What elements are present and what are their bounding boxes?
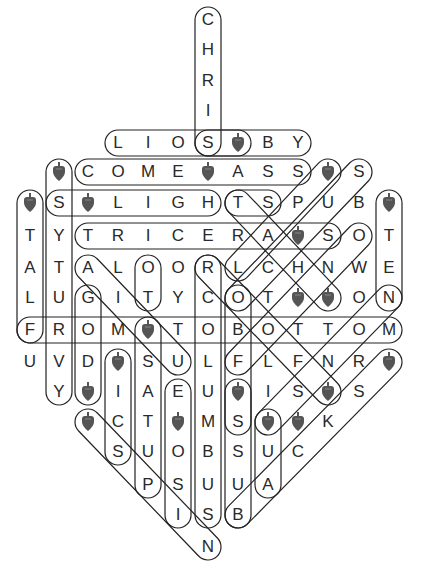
grid-letter: H bbox=[286, 256, 310, 280]
grid-letter: C bbox=[286, 440, 310, 464]
grid-letter: L bbox=[106, 131, 130, 155]
grid-letter: E bbox=[166, 160, 190, 184]
dreidel-icon bbox=[291, 288, 305, 308]
grid-letter: B bbox=[256, 131, 280, 155]
grid-letter: I bbox=[256, 380, 280, 404]
grid-letter: S bbox=[256, 191, 280, 215]
dreidel-icon bbox=[321, 162, 335, 182]
grid-letter: C bbox=[256, 256, 280, 280]
grid-letter: N bbox=[316, 350, 340, 374]
grid-letter: O bbox=[226, 286, 250, 310]
grid-letter: O bbox=[166, 131, 190, 155]
grid-letter: S bbox=[196, 131, 220, 155]
grid-letter: N bbox=[316, 256, 340, 280]
grid-letter: R bbox=[347, 350, 371, 374]
grid-letter: L bbox=[106, 256, 130, 280]
grid-letter: T bbox=[256, 286, 280, 310]
grid-letter: E bbox=[166, 380, 190, 404]
grid-letter: L bbox=[256, 350, 280, 374]
dreidel-icon bbox=[321, 288, 335, 308]
grid-letter: C bbox=[196, 8, 220, 32]
dreidel-icon bbox=[291, 226, 305, 246]
grid-letter: B bbox=[226, 503, 250, 527]
grid-letter: T bbox=[316, 318, 340, 342]
grid-letter: U bbox=[226, 473, 250, 497]
grid-letter: I bbox=[166, 503, 190, 527]
grid-letter: R bbox=[47, 318, 71, 342]
grid-letter: E bbox=[377, 256, 401, 280]
grid-letter: S bbox=[136, 350, 160, 374]
grid-letter: U bbox=[136, 440, 160, 464]
grid-letter: Y bbox=[286, 131, 310, 155]
grid-letter: S bbox=[47, 191, 71, 215]
grid-letter: G bbox=[76, 286, 100, 310]
grid-letter: O bbox=[136, 256, 160, 280]
dreidel-icon bbox=[81, 193, 95, 213]
grid-letter: H bbox=[196, 38, 220, 62]
grid-letter: U bbox=[196, 380, 220, 404]
grid-letter: S bbox=[286, 380, 310, 404]
grid-letter: T bbox=[226, 191, 250, 215]
grid-letter: R bbox=[226, 224, 250, 248]
grid-letter: A bbox=[256, 473, 280, 497]
grid-letter: S bbox=[347, 160, 371, 184]
grid-letter: C bbox=[106, 410, 130, 434]
grid-letter: T bbox=[136, 410, 160, 434]
grid-letter: R bbox=[106, 224, 130, 248]
grid-letter: U bbox=[196, 473, 220, 497]
dreidel-icon bbox=[261, 412, 275, 432]
grid-letter: F bbox=[286, 350, 310, 374]
grid-letter: A bbox=[226, 160, 250, 184]
grid-letter: M bbox=[136, 160, 160, 184]
dreidel-icon bbox=[141, 320, 155, 340]
grid-letter: V bbox=[47, 350, 71, 374]
dreidel-icon bbox=[171, 412, 185, 432]
grid-letter: Y bbox=[166, 286, 190, 310]
grid-letter: F bbox=[18, 318, 42, 342]
dreidel-icon bbox=[321, 382, 335, 402]
grid-letter: I bbox=[136, 131, 160, 155]
grid-letter: M bbox=[106, 318, 130, 342]
dreidel-icon bbox=[291, 412, 305, 432]
grid-letter: S bbox=[166, 473, 190, 497]
grid-letter: B bbox=[196, 440, 220, 464]
grid-letter: L bbox=[226, 256, 250, 280]
grid-letter: L bbox=[196, 350, 220, 374]
grid-letter: I bbox=[136, 191, 160, 215]
dreidel-icon bbox=[201, 162, 215, 182]
grid-letter: O bbox=[166, 440, 190, 464]
grid-letter: S bbox=[347, 380, 371, 404]
grid-letter: S bbox=[286, 160, 310, 184]
word-search-puzzle: CHRILIOSBYCOMEASSSSLIGHTSPUBTYTRICERASOT… bbox=[0, 0, 421, 578]
grid-letter: U bbox=[316, 191, 340, 215]
grid-letter: I bbox=[196, 99, 220, 123]
grid-letter: U bbox=[166, 350, 190, 374]
grid-letter: B bbox=[226, 318, 250, 342]
grid-letter: T bbox=[377, 224, 401, 248]
grid-letter: O bbox=[166, 256, 190, 280]
grid-letter: O bbox=[106, 160, 130, 184]
grid-letter: Y bbox=[47, 224, 71, 248]
grid-letter: B bbox=[347, 191, 371, 215]
grid-letter: A bbox=[18, 256, 42, 280]
dreidel-icon bbox=[81, 412, 95, 432]
grid-letter: T bbox=[286, 318, 310, 342]
grid-letter: P bbox=[286, 191, 310, 215]
grid-letter: S bbox=[106, 440, 130, 464]
dreidel-icon bbox=[231, 382, 245, 402]
grid-letter: U bbox=[47, 286, 71, 310]
grid-letter: A bbox=[256, 224, 280, 248]
dreidel-icon bbox=[382, 193, 396, 213]
grid-letter: O bbox=[347, 286, 371, 310]
grid-letter: T bbox=[47, 256, 71, 280]
grid-letter: N bbox=[377, 286, 401, 310]
grid-letter: O bbox=[196, 318, 220, 342]
grid-letter: Y bbox=[47, 380, 71, 404]
grid-letter: O bbox=[76, 318, 100, 342]
grid-letter: L bbox=[106, 191, 130, 215]
grid-letter: U bbox=[256, 440, 280, 464]
dreidel-icon bbox=[111, 352, 125, 372]
grid-letter: R bbox=[196, 69, 220, 93]
grid-letter: C bbox=[76, 160, 100, 184]
grid-letter: D bbox=[76, 350, 100, 374]
